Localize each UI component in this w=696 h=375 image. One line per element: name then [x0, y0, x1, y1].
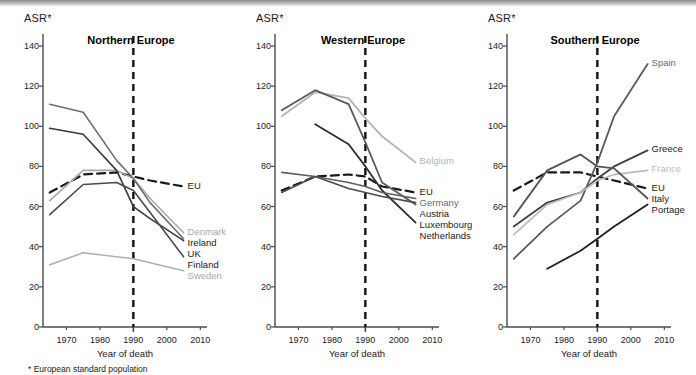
- x-tick-label: 1980: [90, 335, 110, 345]
- footnote: * European standard population: [28, 364, 148, 374]
- x-tick-label: 1980: [322, 335, 342, 345]
- y-tick-label: 60: [481, 202, 503, 212]
- series-label-italy: Italy: [652, 194, 669, 205]
- series-label-denmark: Denmark: [188, 227, 227, 238]
- panel-southern-europe: ASR* Southern Europe 1970198019902000201…: [464, 6, 696, 375]
- series-label-sweden: Sweden: [188, 271, 222, 282]
- figure-three-panel-line-chart: ASR* Northern Europe 1970198019902000201…: [0, 6, 696, 375]
- panel-northern-europe: ASR* Northern Europe 1970198019902000201…: [0, 6, 232, 375]
- x-axis-title: Year of death: [507, 348, 671, 359]
- y-tick-label: 60: [17, 202, 39, 212]
- y-tick-label: 80: [481, 161, 503, 171]
- y-tick-label: 20: [481, 282, 503, 292]
- series-label-austria: Austria: [420, 209, 450, 220]
- x-axis-title: Year of death: [275, 348, 439, 359]
- series-line-uk: [50, 128, 184, 240]
- x-tick-label: 1970: [288, 335, 308, 345]
- series-label-spain: Spain: [652, 58, 676, 69]
- y-tick-label: 20: [17, 282, 39, 292]
- x-tick-label: 1990: [123, 335, 143, 345]
- series-line-spain: [514, 64, 648, 259]
- series-line-finland: [50, 183, 184, 257]
- x-tick-label: 1970: [520, 335, 540, 345]
- y-tick-label: 80: [249, 161, 271, 171]
- series-label-eu: EU: [420, 187, 433, 198]
- series-label-finland: Finland: [188, 260, 219, 271]
- y-tick-label: 100: [249, 121, 271, 131]
- y-tick-label: 120: [249, 81, 271, 91]
- x-tick-label: 2010: [654, 335, 674, 345]
- x-tick-label: 2000: [157, 335, 177, 345]
- y-tick-label: 0: [17, 322, 39, 332]
- series-line-belgium: [282, 92, 416, 162]
- x-tick-label: 1970: [56, 335, 76, 345]
- y-tick-label: 100: [17, 121, 39, 131]
- series-label-portage: Portage: [652, 205, 685, 216]
- y-tick-label: 40: [481, 242, 503, 252]
- x-tick-label: 2010: [422, 335, 442, 345]
- y-tick-label: 40: [249, 242, 271, 252]
- y-tick-label: 120: [17, 81, 39, 91]
- y-tick-label: 40: [17, 242, 39, 252]
- x-tick-label: 2000: [621, 335, 641, 345]
- series-line-germany: [282, 172, 416, 198]
- x-tick-label: 2000: [389, 335, 409, 345]
- x-tick-label: 1990: [587, 335, 607, 345]
- x-tick-label: 1990: [355, 335, 375, 345]
- series-label-germany: Germany: [420, 198, 459, 209]
- y-tick-label: 60: [249, 202, 271, 212]
- y-tick-label: 0: [249, 322, 271, 332]
- series-line-italy: [514, 154, 648, 216]
- series-label-belgium: Belgium: [420, 156, 454, 167]
- series-label-eu: EU: [652, 183, 665, 194]
- y-tick-label: 20: [249, 282, 271, 292]
- y-tick-label: 140: [481, 41, 503, 51]
- y-tick-label: 80: [17, 161, 39, 171]
- series-label-greece: Greece: [652, 144, 683, 155]
- series-label-france: France: [652, 164, 682, 175]
- series-label-uk: UK: [188, 249, 201, 260]
- x-tick-label: 2010: [190, 335, 210, 345]
- series-line-sweden: [50, 253, 184, 271]
- x-axis-title: Year of death: [43, 348, 207, 359]
- y-tick-label: 100: [481, 121, 503, 131]
- panel-western-europe: ASR* Western Europe 19701980199020002010…: [232, 6, 464, 375]
- y-tick-label: 140: [17, 41, 39, 51]
- y-tick-label: 0: [481, 322, 503, 332]
- series-label-eu: EU: [188, 181, 201, 192]
- series-label-ireland: Ireland: [188, 238, 217, 249]
- y-tick-label: 120: [481, 81, 503, 91]
- y-tick-label: 140: [249, 41, 271, 51]
- x-tick-label: 1980: [554, 335, 574, 345]
- series-line-denmark: [50, 170, 184, 232]
